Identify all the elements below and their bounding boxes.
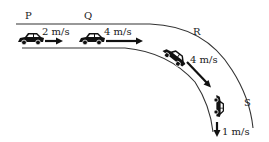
point-label-r: R bbox=[193, 26, 201, 37]
car-icon-p bbox=[18, 33, 44, 45]
point-label-s: S bbox=[244, 97, 251, 108]
velocity-arrow-p bbox=[45, 38, 63, 45]
point-label-p: P bbox=[25, 10, 32, 21]
car-road-diagram: P Q R S 2 m/s 4 m/s 4 m/s bbox=[0, 0, 269, 142]
car-icon-s bbox=[214, 95, 224, 117]
car-icon-q bbox=[79, 33, 105, 45]
velocity-arrow-r bbox=[187, 62, 211, 88]
car-icon-r bbox=[161, 44, 189, 69]
velocity-label-q: 4 m/s bbox=[104, 26, 132, 37]
velocity-label-r: 4 m/s bbox=[190, 54, 218, 65]
point-label-q: Q bbox=[84, 10, 92, 21]
velocity-label-p: 2 m/s bbox=[42, 26, 70, 37]
velocity-arrow-s bbox=[214, 122, 221, 137]
velocity-label-s: 1 m/s bbox=[222, 126, 250, 137]
road-inner-edge bbox=[22, 48, 213, 132]
velocity-arrow-q bbox=[106, 38, 143, 45]
